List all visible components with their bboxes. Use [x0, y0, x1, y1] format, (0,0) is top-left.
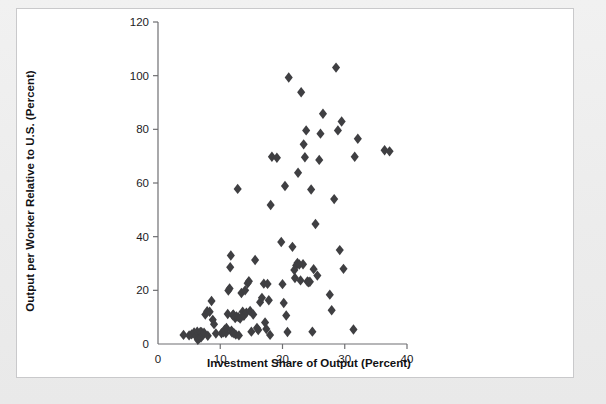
data-point — [300, 139, 308, 149]
data-point — [319, 109, 327, 119]
data-point — [326, 289, 334, 299]
data-point — [311, 219, 319, 229]
figure-panel: 020406080100120 010203040 Investment Sha… — [16, 8, 574, 378]
y-tick-label: 120 — [130, 16, 149, 28]
data-point — [338, 116, 346, 126]
data-point — [302, 125, 310, 135]
data-point — [354, 134, 362, 144]
data-point — [316, 128, 324, 138]
scatter-chart: 020406080100120 010203040 Investment Sha… — [17, 9, 575, 379]
data-point — [234, 184, 242, 194]
data-point — [339, 264, 347, 274]
y-tick-label: 80 — [136, 123, 149, 135]
data-point — [273, 153, 281, 163]
data-point — [278, 279, 286, 289]
data-point — [267, 200, 275, 210]
page-root: 020406080100120 010203040 Investment Sha… — [0, 0, 606, 404]
data-point — [227, 250, 235, 260]
data-point — [297, 87, 305, 97]
y-tick-label: 0 — [143, 338, 149, 350]
data-point — [351, 152, 359, 162]
data-point — [280, 298, 288, 308]
data-point — [308, 326, 316, 336]
y-tick-label: 100 — [130, 70, 149, 82]
data-point — [251, 255, 259, 265]
data-point — [349, 324, 357, 334]
y-axis: 020406080100120 — [130, 16, 158, 350]
data-point — [226, 262, 234, 272]
data-point — [283, 327, 291, 337]
data-markers — [179, 62, 393, 344]
data-point — [265, 295, 273, 305]
data-point — [301, 152, 309, 162]
data-point — [334, 125, 342, 135]
data-point — [315, 155, 323, 165]
data-point — [307, 184, 315, 194]
data-point — [288, 242, 296, 252]
data-point — [277, 237, 285, 247]
x-axis-title: Investment Share of Output (Percent) — [207, 357, 411, 369]
data-point — [294, 168, 302, 178]
y-tick-label: 20 — [136, 284, 149, 296]
data-point — [328, 305, 336, 315]
x-tick-label: 0 — [155, 353, 161, 365]
y-tick-label: 40 — [136, 231, 149, 243]
data-point — [281, 181, 289, 191]
data-point — [386, 146, 394, 156]
data-point — [330, 194, 338, 204]
y-axis-title: Output per Worker Relative to U.S. (Perc… — [24, 70, 36, 312]
y-tick-label: 60 — [136, 177, 149, 189]
data-point — [332, 62, 340, 72]
data-point — [285, 72, 293, 82]
data-point — [207, 296, 215, 306]
data-point — [336, 245, 344, 255]
data-point — [282, 310, 290, 320]
plot-area: 020406080100120 010203040 Investment Sha… — [17, 9, 575, 379]
